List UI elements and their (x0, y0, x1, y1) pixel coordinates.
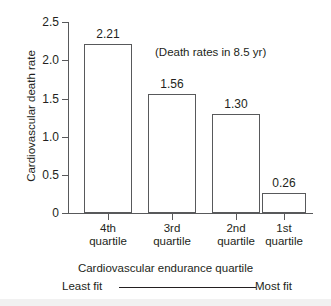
bottom-band (0, 299, 331, 306)
bar-1st-quartile (262, 193, 306, 213)
y-tick-label-0: 0 (19, 207, 59, 219)
x-axis-line (68, 213, 313, 214)
x-category-line1-4th: 4th (73, 222, 143, 235)
x-tick-mark-3rd-quartile (172, 214, 173, 220)
x-category-label-1st-quartile: 1st quartile (249, 222, 319, 248)
fitness-scale-most-fit-label: Most fit (255, 280, 292, 293)
fitness-scale-least-fit-label: Least fit (62, 280, 102, 293)
bar-value-4th-quartile: 2.21 (84, 28, 132, 40)
bar-value-2nd-quartile: 1.30 (212, 98, 260, 110)
x-category-line2-1st: quartile (249, 235, 319, 248)
y-axis-line (68, 22, 69, 214)
x-axis-title: Cardiovascular endurance quartile (0, 262, 331, 275)
bar-3rd-quartile (148, 94, 196, 213)
x-category-line1-1st: 1st (249, 222, 319, 235)
x-category-label-4th-quartile: 4th quartile (73, 222, 143, 248)
y-tick-label-1.0: 1.0 (19, 131, 59, 143)
x-tick-mark-4th-quartile (108, 214, 109, 220)
y-tick-label-0.5: 0.5 (19, 169, 59, 181)
bar-value-3rd-quartile: 1.56 (148, 78, 196, 90)
fitness-scale-rule (119, 287, 256, 289)
x-tick-mark-1st-quartile (284, 214, 285, 220)
x-tick-mark-2nd-quartile (236, 214, 237, 220)
x-category-line2-3rd: quartile (137, 235, 207, 248)
y-tick-label-2.5: 2.5 (19, 16, 59, 28)
chart-figure: Cardiovascular death rate 2.5 2.0 1.5 1.… (0, 0, 331, 306)
bar-4th-quartile (84, 44, 132, 213)
x-category-label-3rd-quartile: 3rd quartile (137, 222, 207, 248)
x-category-line1-3rd: 3rd (137, 222, 207, 235)
y-axis-title: Cardiovascular death rate (25, 16, 37, 216)
fitness-scale: Least fit Most fit (62, 280, 272, 294)
x-category-line2-4th: quartile (73, 235, 143, 248)
y-tick-label-2.0: 2.0 (19, 54, 59, 66)
bar-value-1st-quartile: 0.26 (262, 177, 306, 189)
chart-annotation: (Death rates in 8.5 yr) (155, 46, 266, 59)
y-tick-label-1.5: 1.5 (19, 93, 59, 105)
bar-2nd-quartile (212, 114, 260, 213)
